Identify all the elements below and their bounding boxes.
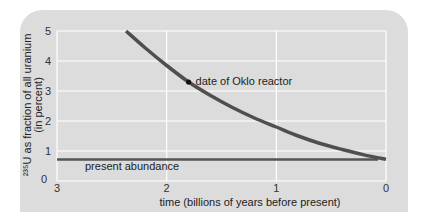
present-abundance-label: present abundance [85, 160, 179, 172]
y-axis-label-line2: (in percent) [32, 77, 44, 133]
series-line [126, 31, 386, 159]
oklo-annotation: date of Oklo reactor [196, 75, 293, 87]
x-tick-label: 3 [54, 182, 60, 194]
x-axis-label: time (billions of years before present) [160, 196, 341, 208]
chart: 0123453210 present abundance date of Okl… [0, 0, 423, 223]
y-tick-label: 2 [45, 115, 51, 127]
x-tick-label: 1 [273, 182, 279, 194]
y-tick-label: 4 [45, 55, 51, 67]
y-tick-label: 0 [41, 173, 47, 185]
y-tick-label: 1 [45, 145, 51, 157]
x-tick-label: 0 [383, 182, 389, 194]
oklo-marker [186, 79, 191, 84]
y-tick-label: 3 [45, 85, 51, 97]
x-tick-label: 2 [164, 182, 170, 194]
y-tick-label: 5 [45, 25, 51, 37]
